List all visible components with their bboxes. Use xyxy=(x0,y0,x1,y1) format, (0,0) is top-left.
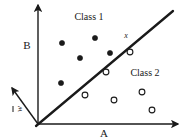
sample-point-label-x: x xyxy=(124,32,128,40)
axis-label-b: B xyxy=(23,40,30,51)
class-2-data-point xyxy=(127,49,133,55)
class-1-data-point xyxy=(92,35,97,40)
classification-diagram: Class 1 Class 2 A B x w xyxy=(0,0,187,138)
class-1-data-point xyxy=(77,55,82,60)
class-1-data-point xyxy=(58,80,63,85)
class-2-data-point xyxy=(149,107,155,113)
class-1-data-point xyxy=(59,40,64,45)
weight-vector-overline-text: w xyxy=(14,106,24,112)
weight-vector-label-w: w xyxy=(15,106,24,112)
class-2-data-point xyxy=(103,69,109,75)
axis-label-a: A xyxy=(100,128,108,139)
class-2-data-point xyxy=(111,97,117,103)
class-2-data-point xyxy=(139,89,145,95)
class-2-label: Class 2 xyxy=(130,68,159,78)
class-2-data-point xyxy=(82,92,88,98)
class-1-label: Class 1 xyxy=(74,12,103,22)
class-1-data-point xyxy=(107,50,112,55)
